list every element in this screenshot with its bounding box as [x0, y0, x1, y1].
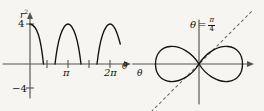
polar-axis-label-theta: θ	[137, 69, 142, 78]
x-axis-label-theta: θ	[122, 62, 127, 71]
curve-lobe-2	[55, 24, 81, 64]
y-tick-label-neg4: −4	[12, 84, 27, 94]
asymptote-fraction-denominator: 4	[208, 26, 214, 33]
asymptote-fraction-numerator: π	[208, 17, 215, 24]
polar-horizontal-arrowhead	[247, 61, 254, 67]
right-chart-panel: θ θ = π 4	[132, 0, 264, 111]
asymptote-label: θ = π 4	[190, 17, 215, 34]
y-tick-label-4: 4	[18, 19, 24, 29]
curve-lobe-1	[30, 24, 44, 64]
polar-curve-figure: r2 4 −4 π 2π θ θ θ = π	[0, 0, 264, 111]
asymptote-label-equals: =	[198, 20, 206, 30]
asymptote-label-fraction: π 4	[208, 17, 215, 34]
x-tick-label-pi: π	[63, 68, 70, 78]
x-tick-label-2pi: 2π	[104, 68, 117, 78]
left-chart-panel: r2 4 −4 π 2π θ	[0, 0, 132, 111]
asymptote-label-theta: θ	[190, 20, 196, 30]
curve-lobe-3	[97, 24, 120, 64]
y-axis-label-exponent: 2	[24, 8, 28, 15]
